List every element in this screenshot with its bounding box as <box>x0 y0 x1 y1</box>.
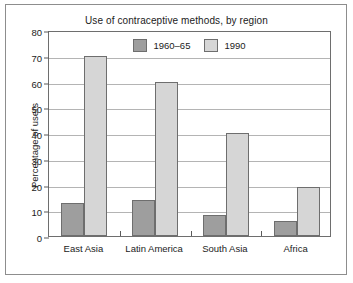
y-tick-label-20: 20 <box>31 181 42 192</box>
y-tick-label-30: 30 <box>31 155 42 166</box>
y-tick-label-60: 60 <box>31 78 42 89</box>
chart-legend: 1960–65 1990 <box>49 39 330 52</box>
x-axis-label-east-asia: East Asia <box>64 243 104 254</box>
legend-entry-1990: 1990 <box>204 39 245 52</box>
y-tick-mark-40 <box>44 135 49 136</box>
bar-africa-1960-65 <box>274 221 297 236</box>
category-separator-2 <box>261 231 262 236</box>
legend-swatch-1990-icon <box>204 39 218 52</box>
x-axis-label-latin-america: Latin America <box>125 243 183 254</box>
y-tick-mark-0 <box>44 238 49 239</box>
legend-label-1990: 1990 <box>224 40 245 51</box>
y-tick-mark-60 <box>44 83 49 84</box>
y-tick-label-40: 40 <box>31 130 42 141</box>
y-tick-mark-10 <box>44 212 49 213</box>
bar-africa-1990 <box>297 187 320 236</box>
bar-south-asia-1990 <box>226 133 249 236</box>
legend-swatch-1960-65-icon <box>133 39 147 52</box>
y-tick-label-70: 70 <box>31 52 42 63</box>
y-axis-title: Percentage of users <box>29 66 40 226</box>
y-tick-mark-70 <box>44 57 49 58</box>
y-tick-mark-50 <box>44 109 49 110</box>
y-tick-label-0: 0 <box>37 233 42 244</box>
bar-south-asia-1960-65 <box>203 215 226 236</box>
bar-latin-america-1960-65 <box>132 200 155 236</box>
y-tick-label-50: 50 <box>31 104 42 115</box>
legend-label-1960-65: 1960–65 <box>153 40 190 51</box>
y-tick-label-10: 10 <box>31 207 42 218</box>
chart-page: Use of contraceptive methods, by region … <box>0 0 353 283</box>
plot-area: 01020304050607080 1960–65 1990 <box>48 31 331 237</box>
y-tick-mark-80 <box>44 32 49 33</box>
y-tick-mark-30 <box>44 160 49 161</box>
bar-latin-america-1990 <box>155 82 178 237</box>
y-tick-label-80: 80 <box>31 27 42 38</box>
category-separator-1 <box>191 231 192 236</box>
bar-east-asia-1960-65 <box>61 203 84 236</box>
y-tick-mark-20 <box>44 186 49 187</box>
category-separator-0 <box>120 231 121 236</box>
x-axis-label-south-asia: South Asia <box>202 243 247 254</box>
x-axis-label-africa: Africa <box>283 243 307 254</box>
legend-entry-1960-65: 1960–65 <box>133 39 190 52</box>
bar-east-asia-1990 <box>84 56 107 236</box>
chart-title: Use of contraceptive methods, by region <box>0 15 353 26</box>
